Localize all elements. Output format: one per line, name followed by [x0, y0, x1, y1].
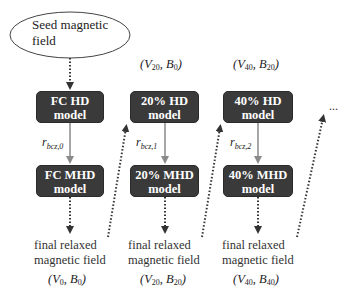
output-coord-20: (V20, B20)	[140, 272, 186, 287]
r-bcz-2-label: rbcz,2	[230, 135, 251, 151]
20pct-hd-model-box: 20% HD model	[130, 91, 199, 123]
seed-magnetic-field-label: Seed magnetic field	[32, 17, 122, 49]
feedback-arrow-1	[108, 128, 126, 237]
output-coord-40: (V40, B40)	[233, 272, 279, 287]
40pct-hd-model-box: 40% HD model	[223, 91, 293, 123]
final-field-label-1: final relaxed magnetic field	[128, 238, 200, 268]
final-field-label-2: final relaxed magnetic field	[222, 238, 294, 268]
20pct-mhd-model-box: 20% MHD model	[130, 165, 199, 197]
r-bcz-1-label: rbcz,1	[136, 135, 157, 151]
fc-mhd-model-box: FC MHD model	[36, 165, 104, 197]
input-coord-40: (V40, B20)	[233, 57, 279, 72]
fc-hd-model-box: FC HD model	[36, 91, 104, 123]
feedback-arrow-2	[202, 128, 220, 237]
continuation-ellipsis: ...	[329, 99, 338, 114]
feedback-arrow-3	[297, 118, 323, 237]
input-coord-20: (V20, B0)	[140, 57, 182, 72]
r-bcz-0-label: rbcz,0	[42, 135, 63, 151]
40pct-mhd-model-box: 40% MHD model	[223, 165, 293, 197]
output-coord-0: (V0, B0)	[48, 272, 86, 287]
final-field-label-0: final relaxed magnetic field	[34, 238, 106, 268]
